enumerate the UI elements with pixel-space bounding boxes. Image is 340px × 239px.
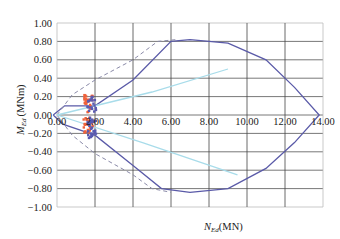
x-tick-label: 14.00	[311, 116, 335, 127]
data-point	[83, 94, 85, 96]
series-envelope-dashed	[57, 40, 177, 115]
data-point	[91, 99, 93, 101]
x-tick-label: 8.00	[200, 116, 218, 127]
y-tick-label: −0.60	[28, 165, 52, 176]
data-point	[83, 131, 85, 133]
data-point	[95, 132, 97, 134]
y-tick-label: −0.20	[28, 128, 52, 139]
data-point	[90, 135, 92, 137]
x-tick-label: 4.00	[124, 116, 142, 127]
data-point	[88, 110, 90, 112]
y-tick-labels: 1.000.800.600.400.200.00−0.20−0.40−0.60−…	[28, 18, 52, 213]
y-axis-label: MEd(MNm)	[15, 84, 28, 136]
y-tick-label: −0.40	[28, 146, 52, 157]
data-point	[91, 96, 93, 98]
x-tick-labels: 0.002.004.006.008.0010.0012.0014.00	[48, 116, 335, 127]
data-point	[94, 129, 96, 131]
y-tick-label: 0.40	[34, 73, 52, 84]
data-point	[87, 106, 89, 108]
chart: 1.000.800.600.400.200.00−0.20−0.40−0.60−…	[0, 0, 340, 239]
x-tick-label: 10.00	[235, 116, 259, 127]
y-tick-label: 0.20	[34, 91, 52, 102]
data-point	[82, 118, 84, 120]
y-tick-label: −1.00	[28, 202, 52, 213]
grid	[57, 23, 323, 207]
x-tick-label: 6.00	[162, 116, 180, 127]
data-point	[87, 134, 89, 136]
data-point	[87, 130, 89, 132]
data-point	[93, 104, 95, 106]
y-tick-label: 0.80	[34, 36, 52, 47]
series-cyan-line-upper	[57, 69, 228, 115]
y-tick-label: 0.60	[34, 54, 52, 65]
data-point	[94, 99, 96, 101]
data-point	[95, 107, 97, 109]
data-point	[85, 100, 87, 102]
x-axis-label: NEd(MN)	[203, 221, 243, 234]
y-tick-label: 1.00	[34, 18, 52, 29]
data-point	[89, 99, 91, 101]
x-tick-label: 2.00	[86, 116, 104, 127]
data-point	[83, 126, 85, 128]
data-point	[91, 108, 93, 110]
series-envelope-dashed-lower	[57, 115, 171, 192]
data-point	[90, 128, 92, 130]
y-tick-label: −0.80	[28, 183, 52, 194]
x-tick-label: 0.00	[48, 116, 66, 127]
x-tick-label: 12.00	[273, 116, 297, 127]
